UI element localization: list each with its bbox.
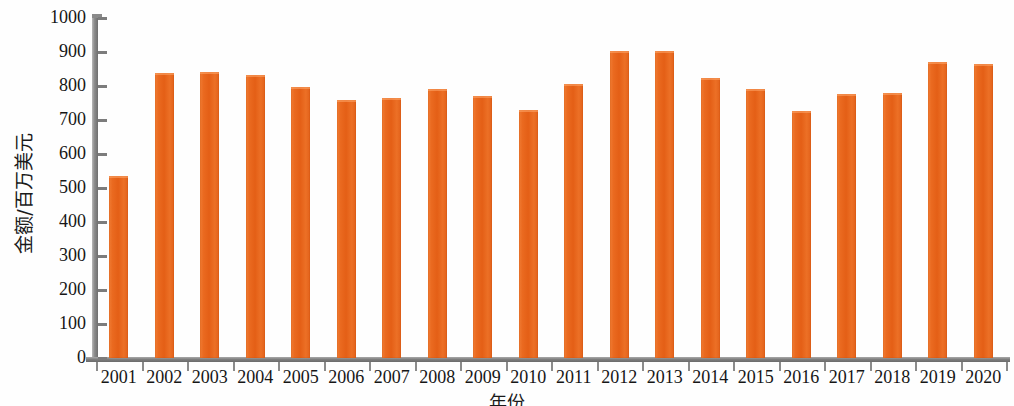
bar-2001	[109, 176, 128, 358]
y-tick-label: 0	[30, 348, 86, 366]
y-tick-label: 600	[30, 144, 86, 162]
y-tick-label: 1000	[30, 8, 86, 26]
x-axis-title: 年份	[0, 388, 1014, 406]
bar-2015	[746, 89, 765, 358]
y-tick-label-wrap: 400	[30, 212, 86, 230]
bar-chart: 金额/百万美元 01002003004005006007008009001000…	[0, 0, 1014, 406]
y-tick-label: 100	[30, 314, 86, 332]
y-tick-label: 900	[30, 42, 86, 60]
bar-2010	[519, 110, 538, 358]
x-tick-label-2020: 2020	[955, 368, 1011, 386]
y-tick-label: 300	[30, 246, 86, 264]
y-tick-label-wrap: 800	[30, 76, 86, 94]
bar-2002	[155, 73, 174, 358]
y-tick-label-wrap: 1000	[30, 8, 86, 26]
y-tick-label: 700	[30, 110, 86, 128]
y-tick-label-wrap: 700	[30, 110, 86, 128]
y-tick-label-wrap: 300	[30, 246, 86, 264]
y-tick-label: 200	[30, 280, 86, 298]
y-tick-label-wrap: 900	[30, 42, 86, 60]
bar-2014	[701, 78, 720, 358]
bar-2008	[428, 89, 447, 358]
bar-2012	[610, 51, 629, 358]
bar-2017	[837, 94, 856, 358]
bar-2006	[337, 100, 356, 358]
bar-2007	[382, 98, 401, 358]
bar-2019	[928, 62, 947, 358]
bar-2011	[564, 84, 583, 358]
y-tick-label: 500	[30, 178, 86, 196]
bar-2005	[291, 87, 310, 358]
y-tick-label-wrap: 600	[30, 144, 86, 162]
bar-2020	[974, 64, 993, 358]
y-tick-label-wrap: 100	[30, 314, 86, 332]
bar-2004	[246, 75, 265, 358]
bar-2013	[655, 51, 674, 358]
y-tick-label: 400	[30, 212, 86, 230]
plot-area	[96, 18, 1006, 358]
y-tick-label: 800	[30, 76, 86, 94]
bar-2018	[883, 93, 902, 358]
bar-2016	[792, 111, 811, 358]
y-tick-label-wrap: 0	[30, 348, 86, 366]
bar-2009	[473, 96, 492, 358]
bar-2003	[200, 72, 219, 358]
y-tick-label-wrap: 200	[30, 280, 86, 298]
y-tick-label-wrap: 500	[30, 178, 86, 196]
